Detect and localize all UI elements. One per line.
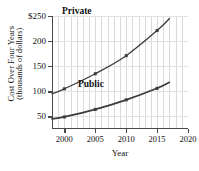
series-line-private [52, 19, 169, 94]
y-tick-label: 200 [33, 36, 47, 46]
x-tick-label: 2015 [149, 134, 166, 144]
x-tick-mark [188, 129, 189, 133]
series-curves [52, 16, 188, 129]
x-tick-label: 2005 [87, 134, 104, 144]
data-point-marker [125, 98, 128, 101]
data-point-marker [125, 54, 128, 57]
data-point-marker [63, 87, 66, 90]
y-axis-title-line2: (thousands of dollars) [16, 4, 24, 124]
x-tick-mark [95, 129, 96, 133]
x-tick-label: 2010 [118, 134, 135, 144]
data-point-marker [156, 87, 159, 90]
y-tick-label: 50 [37, 111, 46, 121]
series-line-public [52, 82, 169, 119]
y-tick-label: 150 [33, 61, 47, 71]
x-tick-label: 2020 [180, 134, 197, 144]
chart-figure: Cost Over Four Years (thousands of dolla… [0, 0, 199, 171]
y-tick-label: $250 [28, 11, 46, 21]
data-point-marker [94, 72, 97, 75]
series-label-private: Private [62, 6, 92, 16]
x-tick-mark [126, 129, 127, 133]
x-tick-mark [64, 129, 65, 133]
x-axis-title: Year [112, 148, 129, 158]
x-tick-mark [157, 129, 158, 133]
series-label-public: Public [78, 79, 104, 89]
data-point-marker [156, 29, 159, 32]
y-axis-title: Cost Over Four Years (thousands of dolla… [7, 4, 24, 124]
plot-area: 50100150200$250 20002005201020152020 Yea… [52, 16, 188, 129]
x-tick-label: 2000 [56, 134, 73, 144]
data-point-marker [63, 115, 66, 118]
y-tick-label: 100 [33, 86, 47, 96]
data-point-marker [94, 108, 97, 111]
